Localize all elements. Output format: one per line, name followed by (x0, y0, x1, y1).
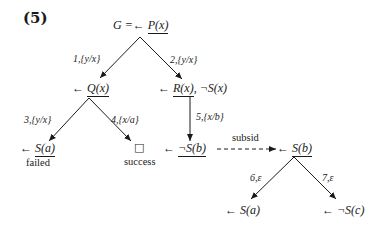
sa-leaf-text: S(a) (240, 203, 260, 217)
node-sb: ← S(b) (277, 142, 312, 154)
edge-4-label: 4,{x/a} (111, 115, 139, 125)
figure-number: (5) (23, 11, 48, 26)
node-root: G =← P(x) (113, 19, 168, 31)
q-prefix: ← (72, 81, 84, 95)
failed-status-label: failed (26, 158, 50, 169)
sa-leaf-prefix: ← (225, 203, 237, 217)
sa-failed-prefix: ← (20, 141, 32, 155)
not-sc-leaf-text: ¬S(c) (337, 203, 364, 217)
root-prefix: G =← (113, 18, 145, 32)
r-atom-selected: R(x) (173, 81, 194, 97)
sb-prefix: ← (277, 141, 289, 155)
r-atom-rest: , ¬S(x) (194, 81, 227, 95)
not-sb-atom: ¬S(b) (178, 141, 206, 157)
edge-7-label: 7,ε (322, 173, 333, 183)
empty-clause-icon: □ (134, 142, 144, 153)
node-q: ← Q(x) (72, 82, 109, 94)
r-prefix: ← (158, 81, 170, 95)
edge-3-label: 3,{y/x} (24, 115, 51, 125)
edge-1-arrow (100, 37, 140, 78)
node-sa-leaf: ← S(a) (225, 204, 260, 216)
edge-5-label: 5,{x/b} (196, 112, 224, 122)
success-status-label: success (124, 157, 156, 168)
node-r: ← R(x), ¬S(x) (158, 82, 227, 94)
not-sc-leaf-prefix: ← (322, 203, 334, 217)
edge-3-arrow (49, 98, 89, 141)
q-atom: Q(x) (87, 81, 109, 97)
edge-2-label: 2,{y/x} (170, 55, 197, 65)
node-not-sc-leaf: ← ¬S(c) (322, 204, 364, 216)
edge-1-label: 1,{y/x} (73, 54, 100, 64)
edge-6-label: 6,ε (250, 173, 261, 183)
root-atom: P(x) (148, 18, 169, 34)
node-not-sb: ← ¬S(b) (163, 142, 206, 154)
sb-atom: S(b) (292, 141, 312, 157)
node-sa-failed: ← S(a) (20, 142, 55, 154)
subsid-label: subsid (232, 133, 259, 144)
tree-edges (0, 0, 379, 228)
sa-failed-atom: S(a) (35, 141, 55, 157)
not-sb-prefix: ← (163, 141, 175, 155)
